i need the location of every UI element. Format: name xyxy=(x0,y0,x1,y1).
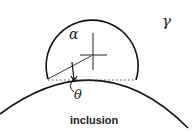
alpha-label: α xyxy=(69,26,78,42)
theta-label: θ xyxy=(74,87,82,102)
inclusion-label: inclusion xyxy=(70,114,118,126)
droplet-arc xyxy=(46,20,138,80)
gamma-label: γ xyxy=(162,12,171,30)
radius-line xyxy=(48,56,91,79)
